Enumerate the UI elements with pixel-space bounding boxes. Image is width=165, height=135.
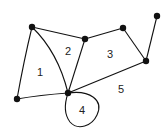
face-label-2: 2 bbox=[65, 46, 71, 57]
vertex-d bbox=[154, 13, 160, 19]
edge-a-g bbox=[17, 27, 32, 99]
edge-a-f bbox=[32, 27, 68, 93]
edge-g-f bbox=[17, 93, 68, 99]
vertex-g bbox=[14, 96, 20, 102]
face-label-5: 5 bbox=[118, 84, 124, 95]
face-label-4: 4 bbox=[79, 105, 85, 116]
face-label-3: 3 bbox=[107, 49, 113, 60]
edge-e-f bbox=[68, 61, 146, 93]
vertex-a bbox=[29, 24, 35, 30]
edge-a-b bbox=[32, 27, 85, 39]
vertex-c bbox=[120, 25, 126, 31]
face-label-1: 1 bbox=[37, 67, 43, 78]
edge-c-e bbox=[123, 28, 146, 61]
edge-d-e bbox=[146, 16, 157, 61]
vertex-b bbox=[82, 36, 88, 42]
vertex-e bbox=[143, 58, 149, 64]
edge-b-c bbox=[85, 28, 123, 39]
planar-graph-diagram: 1 2 3 4 5 bbox=[0, 0, 165, 135]
vertex-f bbox=[65, 90, 71, 96]
